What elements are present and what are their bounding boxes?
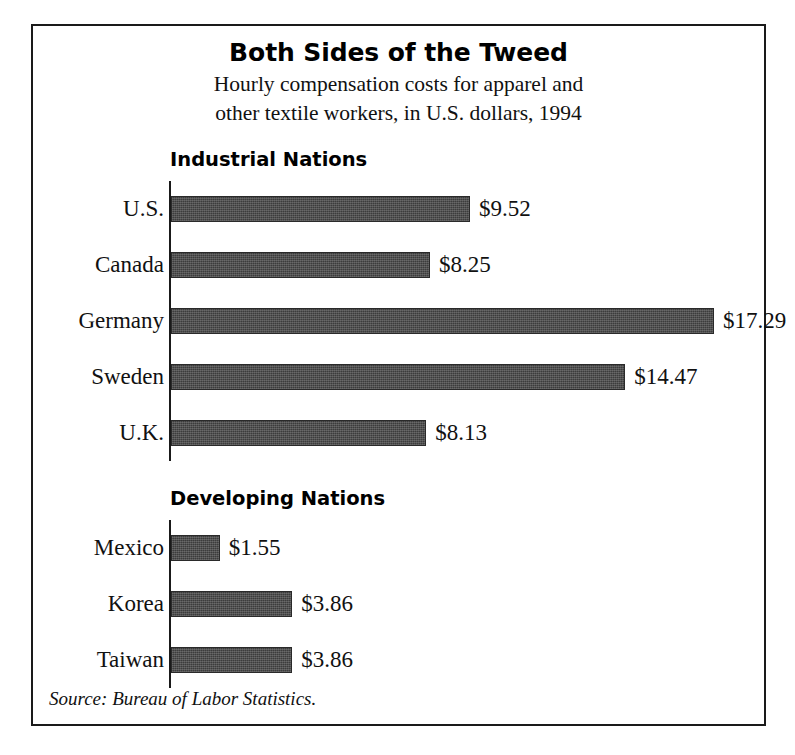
- group-heading-industrial: Industrial Nations: [170, 148, 764, 171]
- category-label: Korea: [108, 591, 164, 617]
- group-developing-nations: Developing Nations Mexico $1.55 Korea $3…: [33, 487, 764, 688]
- group-heading-developing: Developing Nations: [170, 487, 764, 510]
- bar: [171, 252, 430, 278]
- category-label: Sweden: [91, 364, 164, 390]
- bar-group: $3.86: [171, 647, 353, 673]
- chart-title: Both Sides of the Tweed: [33, 38, 764, 68]
- bar: [171, 308, 714, 334]
- bar: [171, 364, 625, 390]
- bar: [171, 535, 220, 561]
- title-block: Both Sides of the Tweed Hourly compensat…: [33, 26, 764, 126]
- category-label: U.K.: [119, 420, 164, 446]
- bar: [171, 420, 426, 446]
- category-label: Taiwan: [97, 647, 164, 673]
- group-industrial-nations: Industrial Nations U.S. $9.52 Canada $8.…: [33, 148, 764, 461]
- bar-value-label: $14.47: [634, 364, 697, 390]
- bar: [171, 196, 470, 222]
- bar: [171, 591, 292, 617]
- category-label: Canada: [95, 252, 164, 278]
- bar-value-label: $9.52: [479, 196, 531, 222]
- chart-subtitle-line-1: Hourly compensation costs for apparel an…: [33, 71, 764, 97]
- bar-value-label: $1.55: [229, 535, 281, 561]
- bar-value-label: $17.29: [723, 308, 786, 334]
- category-label: Mexico: [94, 535, 164, 561]
- bar-value-label: $3.86: [301, 647, 353, 673]
- plot-developing: Mexico $1.55 Korea $3.86 Taiwan $3.86: [33, 520, 764, 688]
- bar-row: Canada $8.25: [33, 237, 764, 293]
- bar-group: $3.86: [171, 591, 353, 617]
- plot-industrial: U.S. $9.52 Canada $8.25 Germany $17.29: [33, 181, 764, 461]
- chart-figure: Both Sides of the Tweed Hourly compensat…: [31, 24, 766, 726]
- category-label: Germany: [78, 308, 164, 334]
- bar-row: Germany $17.29: [33, 293, 764, 349]
- category-label: U.S.: [123, 196, 164, 222]
- source-note: Source: Bureau of Labor Statistics.: [49, 688, 316, 710]
- bar-row: Mexico $1.55: [33, 520, 764, 576]
- chart-subtitle-line-2: other textile workers, in U.S. dollars, …: [33, 100, 764, 126]
- bar: [171, 647, 292, 673]
- bar-group: $17.29: [171, 308, 786, 334]
- bar-value-label: $3.86: [301, 591, 353, 617]
- bar-group: $8.13: [171, 420, 487, 446]
- bar-row: U.S. $9.52: [33, 181, 764, 237]
- bar-group: $8.25: [171, 252, 491, 278]
- bar-row: Sweden $14.47: [33, 349, 764, 405]
- bar-row: U.K. $8.13: [33, 405, 764, 461]
- bar-value-label: $8.25: [439, 252, 491, 278]
- bar-group: $14.47: [171, 364, 698, 390]
- bar-value-label: $8.13: [435, 420, 487, 446]
- bar-row: Taiwan $3.86: [33, 632, 764, 688]
- bar-row: Korea $3.86: [33, 576, 764, 632]
- bar-group: $9.52: [171, 196, 531, 222]
- bar-group: $1.55: [171, 535, 280, 561]
